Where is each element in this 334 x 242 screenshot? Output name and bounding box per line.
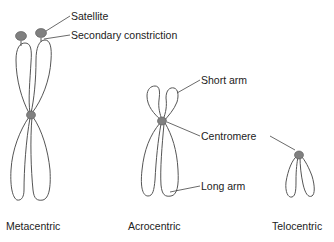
acrocentric-chromosome: [141, 86, 178, 196]
label-long-arm: Long arm: [201, 180, 245, 192]
leader-centromere-acro: [167, 122, 200, 136]
satellite-left: [16, 32, 27, 41]
caption-telocentric: Telocentric: [272, 220, 322, 232]
leader-centromere-telo: [270, 136, 295, 150]
metacentric-centromere: [27, 111, 36, 119]
acrocentric-centromere: [158, 117, 167, 125]
label-secondary-constriction: Secondary constriction: [71, 29, 177, 41]
telocentric-chromosome: [286, 156, 314, 197]
satellite-right: [36, 29, 47, 38]
leader-secondary-constriction: [44, 35, 70, 39]
leader-short-arm: [177, 80, 200, 93]
caption-metacentric: Metacentric: [6, 220, 60, 232]
telocentric-centromere: [295, 151, 304, 159]
label-satellite: Satellite: [71, 10, 108, 22]
leader-long-arm: [170, 186, 200, 192]
leader-satellite: [46, 16, 70, 31]
label-short-arm: Short arm: [201, 74, 247, 86]
caption-acrocentric: Acrocentric: [128, 220, 181, 232]
label-centromere: Centromere: [201, 130, 256, 142]
